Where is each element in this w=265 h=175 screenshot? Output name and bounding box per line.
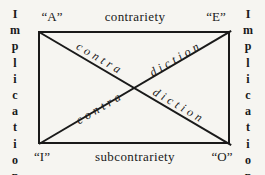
contrariety-label: contrariety bbox=[39, 9, 231, 24]
implication-label-left: Implication bbox=[7, 7, 22, 173]
subcontrariety-label: subcontrariety bbox=[39, 149, 231, 164]
implication-label-right: Implication bbox=[240, 7, 255, 173]
square-of-opposition-diagram: “A” “E” “I” “O” contrariety subcontrarie… bbox=[0, 0, 265, 175]
